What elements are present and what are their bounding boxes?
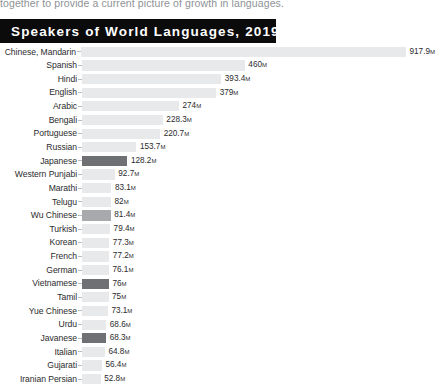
bar-value-unit: M <box>130 226 135 232</box>
chart-row: Japanese128.2M <box>0 154 435 168</box>
chart-row: Italian64.8M <box>0 345 435 359</box>
bar-value-label: 128.2M <box>127 157 156 165</box>
bar-value-label: 68.6M <box>106 321 130 329</box>
bar-track: 75M <box>82 291 435 305</box>
category-label: Telugu <box>0 198 77 207</box>
bar-value-unit: M <box>245 76 250 82</box>
bar <box>82 224 110 234</box>
bar <box>82 279 109 289</box>
bar <box>82 142 136 152</box>
bar-value-unit: M <box>129 253 134 259</box>
bar-track: 68.3M <box>82 331 435 345</box>
bar-value-label: 79.4M <box>110 225 134 233</box>
category-label: Iranian Persian <box>0 375 77 384</box>
chart-row: Urdu68.6M <box>0 318 435 332</box>
bar-value-label: 56.4M <box>102 361 126 369</box>
bar-value-unit: M <box>128 267 133 273</box>
bar-track: 83.1M <box>82 181 435 195</box>
bar-value-unit: M <box>131 185 136 191</box>
bar <box>82 360 102 370</box>
chart-row: Wu Chinese81.4M <box>0 209 435 223</box>
category-label: French <box>0 252 77 261</box>
category-label: Tamil <box>0 293 77 302</box>
category-label: Russian <box>0 143 77 152</box>
bar-value-unit: M <box>151 158 156 164</box>
bar <box>82 347 105 357</box>
bar-value-unit: M <box>122 281 127 287</box>
bar-value-label: 68.3M <box>106 334 130 342</box>
chart-row: Turkish79.4M <box>0 222 435 236</box>
bar-track: 77.2M <box>82 250 435 264</box>
bar-value-label: 917.9M <box>406 48 435 56</box>
chart-row: Iranian Persian52.8M <box>0 372 435 386</box>
chart-row: Chinese, Mandarin917.9M <box>0 45 435 59</box>
category-label: Marathi <box>0 184 77 193</box>
bar-value-unit: M <box>129 240 134 246</box>
chart-row: German76.1M <box>0 263 435 277</box>
chart-row: Korean77.3M <box>0 236 435 250</box>
bar-value-unit: M <box>127 308 132 314</box>
category-label: Wu Chinese <box>0 211 77 220</box>
bar-track: 73.1M <box>82 304 435 318</box>
bar-value-unit: M <box>121 294 126 300</box>
bar-value-label: 73.1M <box>108 307 132 315</box>
bar-value-label: 81.4M <box>111 211 135 219</box>
bar-value-label: 77.3M <box>109 239 133 247</box>
bar-value-unit: M <box>126 322 131 328</box>
chart-row: Javanese68.3M <box>0 331 435 345</box>
bar-chart: Chinese, Mandarin917.9MSpanish460MHindi3… <box>0 45 435 386</box>
category-label: Japanese <box>0 157 77 166</box>
bar-value-label: 220.7M <box>160 130 189 138</box>
bar <box>82 320 106 330</box>
bar-track: 56.4M <box>82 359 435 373</box>
bar-value-label: 379M <box>216 89 238 97</box>
bar-track: 92.7M <box>82 168 435 182</box>
bar-track: 379M <box>82 86 435 100</box>
chart-row: Spanish460M <box>0 59 435 73</box>
bar-value-unit: M <box>130 212 135 218</box>
chart-row: French77.2M <box>0 250 435 264</box>
page-title: Speakers of World Languages, 2019 <box>0 24 280 39</box>
bar <box>82 101 179 111</box>
bar <box>82 265 109 275</box>
bar <box>82 374 101 384</box>
bar-value-unit: M <box>124 199 129 205</box>
category-label: Chinese, Mandarin <box>0 48 76 57</box>
chart-row: Western Punjabi92.7M <box>0 168 435 182</box>
bar <box>82 88 216 98</box>
bar <box>82 210 111 220</box>
category-label: Urdu <box>0 320 77 329</box>
chart-row: Bengali228.3M <box>0 113 435 127</box>
category-label: Korean <box>0 238 77 247</box>
page-excerpt-text: together to provide a current picture of… <box>0 0 435 11</box>
bar-value-label: 64.8M <box>105 348 129 356</box>
chart-row: Arabic274M <box>0 100 435 114</box>
category-label: Turkish <box>0 225 77 234</box>
category-label: Arabic <box>0 102 77 111</box>
bar <box>82 251 109 261</box>
chart-row: Portuguese220.7M <box>0 127 435 141</box>
bar-value-unit: M <box>196 103 201 109</box>
bar-value-label: 75M <box>109 293 127 301</box>
chart-row: Russian153.7M <box>0 140 435 154</box>
bar <box>82 183 111 193</box>
bar <box>82 292 109 302</box>
category-label: Javanese <box>0 334 77 343</box>
chart-row: Yue Chinese73.1M <box>0 304 435 318</box>
bar-value-label: 52.8M <box>101 375 125 383</box>
bar-track: 79.4M <box>82 222 435 236</box>
category-label: Yue Chinese <box>0 307 77 316</box>
bar-value-label: 393.4M <box>221 75 250 83</box>
bar-value-label: 92.7M <box>115 170 139 178</box>
bar-value-unit: M <box>262 62 267 68</box>
bar-value-unit: M <box>126 335 131 341</box>
bar <box>82 60 245 70</box>
category-label: German <box>0 266 77 275</box>
category-label: Bengali <box>0 116 77 125</box>
bar-track: 220.7M <box>82 127 435 141</box>
category-label: Vietnamese <box>0 279 77 288</box>
bar-track: 76.1M <box>82 263 435 277</box>
bar-value-unit: M <box>187 117 192 123</box>
chart-row: Vietnamese76M <box>0 277 435 291</box>
bar-value-unit: M <box>233 90 238 96</box>
